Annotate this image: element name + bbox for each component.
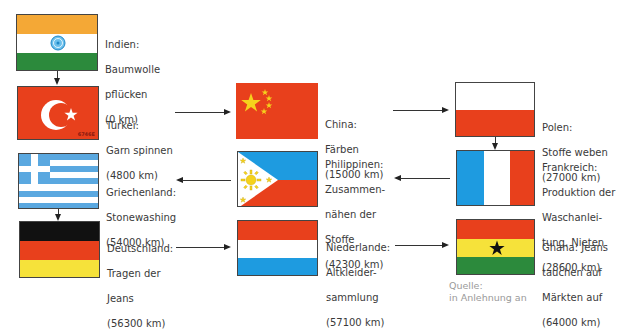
flag-india xyxy=(16,14,98,71)
station-ghana-label: Ghana: Jeans tauchen auf Märkten auf (64… xyxy=(542,229,608,333)
arrow-head-down-icon xyxy=(54,78,60,85)
crescent-star-icon xyxy=(38,95,82,135)
arrow-philippines-greece xyxy=(182,180,231,181)
flag-code: 6746E xyxy=(78,131,95,137)
arrow-germany-netherlands xyxy=(176,247,225,248)
arrow-head-right-icon xyxy=(442,107,449,113)
arrow-head-down-icon xyxy=(55,214,61,221)
arrow-head-right-icon xyxy=(224,109,231,115)
flag-philippines xyxy=(237,151,318,207)
sun-triangle-icon xyxy=(238,152,318,207)
arrow-netherlands-ghana xyxy=(395,245,443,246)
arrow-turkey-china xyxy=(175,112,225,113)
flag-france xyxy=(456,150,535,206)
station-netherlands-label: Niederlande: Altkleider- sammlung (57100… xyxy=(326,229,390,333)
arrow-head-right-icon xyxy=(224,244,231,250)
flag-germany xyxy=(19,221,100,278)
stars-icon xyxy=(237,84,318,139)
flag-poland xyxy=(455,82,535,137)
ashoka-chakra-icon xyxy=(50,35,66,51)
source-label: Quelle: xyxy=(449,280,527,292)
flag-china xyxy=(236,83,318,139)
flag-ghana xyxy=(456,219,535,275)
black-star-icon xyxy=(489,240,505,256)
flag-turkey: 6746E xyxy=(17,86,99,140)
arrow-head-right-icon xyxy=(442,242,449,248)
arrow-head-down-icon xyxy=(492,143,498,150)
source-note: Quelle: in Anlehnung an xyxy=(449,280,527,304)
arrow-france-philippines xyxy=(400,178,450,179)
arrow-china-poland xyxy=(393,110,443,111)
flag-greece xyxy=(18,153,99,209)
flag-netherlands xyxy=(237,220,318,276)
source-text: in Anlehnung an xyxy=(449,292,527,304)
station-germany-label: Deutschland: Tragen der Jeans (56300 km) xyxy=(107,230,173,333)
